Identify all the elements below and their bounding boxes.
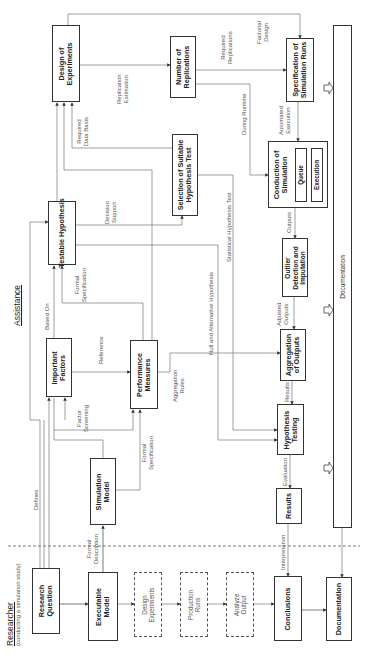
testable-hypothesis-label: Testable Hypothesis	[58, 198, 66, 267]
label-statistical-hypothesis-test: Statistical Hypothesis Test	[226, 192, 233, 262]
simulation-model-box[interactable]: Simulation Model	[90, 458, 116, 525]
research-question-box[interactable]: Research Question	[32, 568, 60, 634]
specification-simulation-runs-box[interactable]: Specification of Simulation Runs	[286, 38, 314, 102]
documentation-bar[interactable]: Documentation	[333, 25, 352, 528]
label-evaluation: Evaluation	[282, 458, 289, 486]
results-box[interactable]: Results	[276, 488, 302, 524]
results-label: Results	[285, 493, 293, 519]
label-aggregation-rules: Aggregation Rules	[172, 370, 186, 402]
performance-measures-box[interactable]: Performance Measures	[130, 340, 158, 409]
researcher-header: Researcher (conducting a simulation stud…	[5, 563, 21, 646]
conclusions-label: Conclusions	[284, 587, 292, 630]
testable-hypothesis-box[interactable]: Testable Hypothesis	[48, 201, 76, 265]
analyze-output-dashed-box[interactable]: Analyze Output	[226, 572, 254, 637]
assistance-header: Assistance	[12, 285, 22, 326]
selection-hypothesis-test-box[interactable]: Selection of Suitable Hypothesis Test	[172, 134, 198, 216]
selection-hypothesis-test-label: Selection of Suitable Hypothesis Test	[177, 140, 194, 211]
queue-box[interactable]: Queue	[295, 148, 307, 202]
label-during-runtime: During Runtime	[241, 93, 248, 135]
label-factorial-design: Factorial Design	[256, 21, 270, 44]
label-formal-specification-2: Formal Specification	[74, 268, 88, 302]
documentation-bar-label: Documentation	[339, 255, 346, 299]
production-runs-dashed-label: Production Runs	[187, 589, 201, 619]
conduction-of-simulation-label: Conduction of Simulation	[273, 150, 290, 199]
label-replication-estimation: Replication Estimation	[116, 74, 130, 104]
executable-model-box[interactable]: Executable Model	[88, 572, 118, 641]
label-based-on: Based On	[44, 303, 51, 330]
label-results-edge: Results	[284, 382, 291, 402]
queue-label: Queue	[297, 165, 304, 185]
number-of-replications-label: Number of Replications	[175, 46, 192, 89]
label-interpretation: Interpretation	[280, 535, 287, 570]
label-formal-specification-1: Formal Specification	[141, 436, 155, 470]
important-factors-box[interactable]: Important Factors	[46, 338, 72, 397]
analyze-output-dashed-label: Analyze Output	[233, 593, 247, 615]
label-formal-description: Formal Description	[86, 534, 100, 564]
label-decision-support: Decision Support	[104, 201, 118, 224]
label-defines: Defines	[33, 490, 40, 510]
important-factors-label: Important Factors	[51, 351, 68, 384]
simulation-model-label: Simulation Model	[95, 473, 112, 510]
label-required-data-basis: Required Data Basis	[76, 117, 90, 146]
researcher-title: Researcher	[5, 563, 15, 646]
label-required-replications: Required Replications	[220, 31, 234, 64]
researcher-subtitle: (conducting a simulation study)	[15, 563, 21, 646]
conduction-of-simulation-box[interactable]: Conduction of Simulation Queue Execution	[268, 141, 328, 208]
executable-model-label: Executable Model	[95, 588, 112, 626]
outlier-detection-box[interactable]: Outlier Detection and Imputation	[282, 238, 308, 297]
execution-label: Execution	[313, 160, 320, 190]
performance-measures-label: Performance Measures	[136, 353, 153, 397]
simulation-study-diagram: Researcher (conducting a simulation stud…	[0, 0, 368, 654]
design-experiments-dashed-label: Design Experiments	[141, 587, 155, 622]
design-of-experiments-box[interactable]: Design of Experiments	[52, 25, 80, 102]
documentation-box-label: Documentation	[335, 583, 343, 635]
design-of-experiments-label: Design of Experiments	[58, 42, 75, 85]
label-factor-screening: Factor Screening	[76, 405, 90, 432]
number-of-replications-box[interactable]: Number of Replications	[170, 36, 196, 98]
outlier-detection-label: Outlier Detection and Imputation	[284, 246, 307, 290]
conclusions-box[interactable]: Conclusions	[274, 576, 302, 641]
label-reference: Reference	[98, 336, 105, 364]
production-runs-dashed-box[interactable]: Production Runs	[180, 572, 208, 637]
label-adjusted-outputs: Adjusted Outputs	[276, 303, 290, 326]
design-experiments-dashed-box[interactable]: Design Experiments	[134, 572, 162, 637]
documentation-box[interactable]: Documentation	[326, 577, 352, 641]
label-outputs: Outputs	[286, 212, 293, 233]
hypothesis-testing-box[interactable]: Hypothesis Testing	[277, 404, 304, 455]
research-question-label: Research Question	[38, 585, 55, 617]
aggregation-of-outputs-box[interactable]: Aggregation of Outputs	[280, 329, 306, 381]
aggregation-of-outputs-label: Aggregation of Outputs	[285, 334, 302, 376]
label-automated-execution: Automated Execution	[278, 106, 292, 135]
label-null-alternative-hypothesis: Null and Alternative Hypothesis	[208, 272, 215, 355]
execution-box[interactable]: Execution	[311, 148, 323, 202]
specification-simulation-runs-label: Specification of Simulation Runs	[292, 42, 309, 99]
hypothesis-testing-label: Hypothesis Testing	[282, 410, 299, 449]
